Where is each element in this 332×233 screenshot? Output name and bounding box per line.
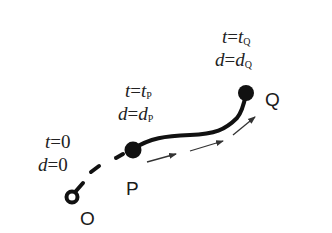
motion-diagram: t=tQ d=dQ t=tP d=dP t=0 d=0 Q P O: [0, 0, 332, 233]
path-graphic: [0, 0, 332, 233]
label-q-distance: d=dQ: [215, 50, 252, 70]
dashed-path-o-to-p: [91, 154, 123, 172]
point-p-dot-icon: [125, 142, 142, 159]
label-q-time: t=tQ: [222, 27, 251, 47]
arrow-icon: [190, 141, 223, 151]
origin-marker-icon: [67, 183, 84, 203]
label-o-time: t=0: [45, 132, 71, 151]
point-q-label: Q: [265, 90, 280, 109]
label-p-distance: d=dP: [118, 104, 153, 124]
direction-arrows: [147, 117, 255, 162]
point-q-dot-icon: [238, 85, 254, 101]
label-o-distance: d=0: [38, 155, 68, 174]
arrow-icon: [147, 154, 176, 162]
point-p-label: P: [126, 179, 139, 198]
point-o-label: O: [80, 209, 95, 228]
label-p-time: t=tP: [125, 81, 152, 101]
